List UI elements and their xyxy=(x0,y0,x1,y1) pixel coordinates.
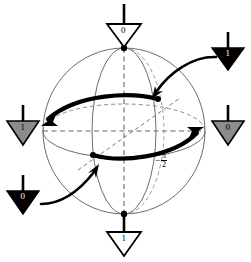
angle-annotation: − π 2 xyxy=(155,152,167,168)
trajectory-lower-arc xyxy=(93,133,197,159)
marker-bottom-label: 1 xyxy=(122,234,127,243)
marker-top-label: 0 xyxy=(121,26,126,35)
pointer-arrow-lower xyxy=(41,172,94,204)
angle-minus-sign: − xyxy=(155,155,160,165)
pointer-arrow-upper xyxy=(156,57,216,92)
trajectory-upper-start-dot xyxy=(155,96,161,102)
trajectory-lower-start-dot xyxy=(90,152,96,158)
marker-top-right-label: 1 xyxy=(226,49,231,58)
angle-denominator: 2 xyxy=(161,160,167,169)
marker-bottom-left-label: 0 xyxy=(21,192,26,201)
bloch-sphere-figure: 0 1 1 0 0 1 − π 2 xyxy=(0,0,251,262)
angle-numerator: π xyxy=(161,152,167,160)
marker-right-label: 0 xyxy=(226,123,231,132)
trajectory-upper-arc xyxy=(48,95,158,119)
angle-fraction: π 2 xyxy=(161,152,167,168)
bloch-sphere-canvas xyxy=(0,0,251,262)
marker-left-label: 1 xyxy=(21,123,26,132)
